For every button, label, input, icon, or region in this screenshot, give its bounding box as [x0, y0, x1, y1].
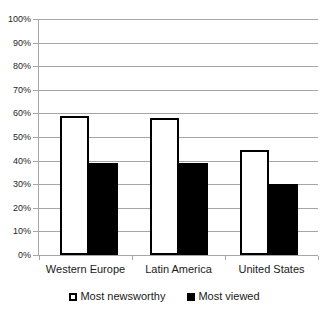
plot-area [39, 19, 318, 255]
y-axis-tick [33, 208, 38, 209]
bar-most-newsworthy [240, 150, 269, 255]
bar-most-viewed [179, 163, 208, 255]
x-axis-tick [318, 256, 319, 260]
y-axis-tick-label: 30% [0, 179, 31, 189]
legend-label: Most viewed [198, 290, 259, 303]
y-axis-tick [33, 255, 38, 256]
y-axis-tick-label: 40% [0, 156, 31, 166]
gridline [39, 113, 318, 114]
gridline [39, 19, 318, 20]
legend-swatch-icon [187, 293, 195, 301]
y-axis-tick-label: 60% [0, 108, 31, 118]
y-axis-tick [33, 43, 38, 44]
bar-most-viewed [269, 184, 298, 255]
y-axis-tick-label: 50% [0, 132, 31, 142]
y-axis-tick [33, 19, 38, 20]
bar-most-newsworthy [150, 118, 179, 255]
x-axis-line [39, 255, 318, 256]
y-axis-tick-label: 70% [0, 85, 31, 95]
gridline [39, 66, 318, 67]
legend-item-most-newsworthy[interactable]: Most newsworthy [69, 290, 165, 303]
chart-legend: Most newsworthyMost viewed [0, 290, 329, 303]
legend-item-most-viewed[interactable]: Most viewed [187, 290, 259, 303]
x-axis-category-label: Latin America [132, 262, 225, 276]
x-axis-category-label: Western Europe [39, 262, 132, 276]
x-axis-tick [225, 256, 226, 260]
y-axis-tick [33, 231, 38, 232]
y-axis-tick-label: 0% [0, 250, 31, 260]
y-axis-tick-label: 80% [0, 61, 31, 71]
y-axis-tick-label: 10% [0, 226, 31, 236]
bar-most-newsworthy [60, 116, 89, 255]
y-axis-tick [33, 137, 38, 138]
y-axis-tick [33, 66, 38, 67]
y-axis-tick [33, 90, 38, 91]
legend-swatch-icon [69, 293, 77, 301]
y-axis-tick-label: 90% [0, 38, 31, 48]
x-axis-tick [39, 256, 40, 260]
x-axis-category-label: United States [225, 262, 318, 276]
gridline [39, 43, 318, 44]
gridline [39, 90, 318, 91]
bar-most-viewed [89, 163, 118, 255]
y-axis-tick [33, 161, 38, 162]
y-axis-tick-label: 20% [0, 203, 31, 213]
y-axis-tick [33, 113, 38, 114]
y-axis-tick [33, 184, 38, 185]
y-axis-tick-label: 100% [0, 14, 31, 24]
legend-label: Most newsworthy [80, 290, 165, 303]
x-axis-tick [132, 256, 133, 260]
bar-chart: 0%10%20%30%40%50%60%70%80%90%100% Wester… [0, 0, 329, 320]
